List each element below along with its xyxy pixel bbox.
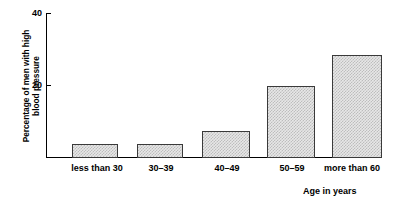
bar-30-39 [137,144,183,159]
x-axis-title: Age in years [303,186,357,196]
y-axis-tick-label-20: 20 [0,80,46,91]
bar-chart: Percentage of men with high blood pressu… [0,0,393,210]
bar-less-than-30 [72,144,118,159]
bar-50-59 [267,86,315,159]
bar-more-than-60 [332,55,382,158]
x-axis-tick-label-4: more than 60 [312,162,392,174]
plot-area [47,13,382,158]
y-axis-tick-label-40: 40 [0,8,46,19]
x-axis-tick-label-1: 30–39 [124,162,198,174]
bar-40-49 [202,131,250,158]
